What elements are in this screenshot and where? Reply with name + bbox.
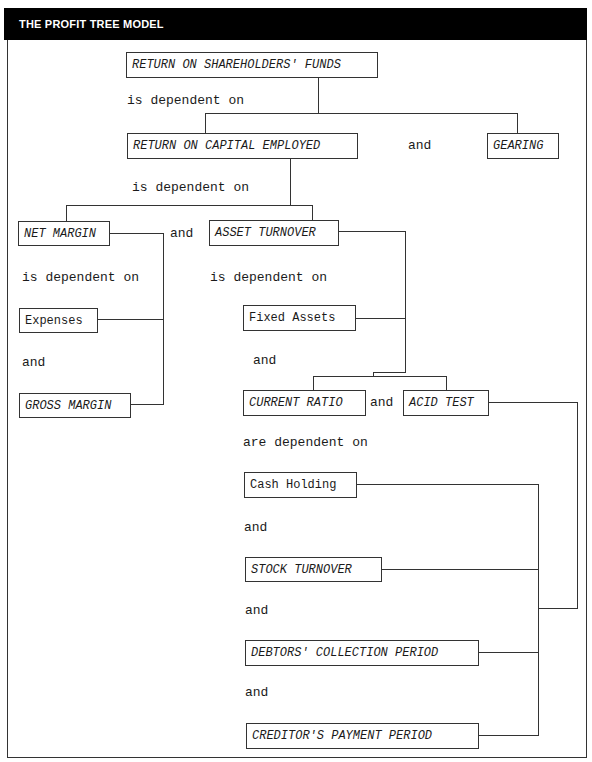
connector xyxy=(479,652,539,653)
label-and: and xyxy=(170,227,193,240)
connector xyxy=(318,78,319,114)
node-creditors-payment-period: CREDITOR'S PAYMENT PERIOD xyxy=(246,723,479,749)
connector xyxy=(446,376,447,390)
node-gearing: GEARING xyxy=(487,133,559,159)
connector xyxy=(538,484,539,736)
connector xyxy=(66,205,67,221)
connector xyxy=(98,319,164,320)
connector xyxy=(517,113,518,133)
connector xyxy=(339,231,406,232)
connector xyxy=(312,205,313,220)
connector xyxy=(290,159,291,206)
node-gross-margin: GROSS MARGIN xyxy=(19,393,131,418)
node-return-on-capital-employed: RETURN ON CAPITAL EMPLOYED xyxy=(127,133,358,159)
label-and: and xyxy=(22,356,45,369)
connector xyxy=(131,404,164,405)
node-net-margin: NET MARGIN xyxy=(18,221,110,246)
node-fixed-assets: Fixed Assets xyxy=(243,305,356,331)
connector xyxy=(313,376,314,390)
connector xyxy=(538,608,578,609)
connector xyxy=(373,372,406,373)
connector xyxy=(405,231,406,373)
node-return-on-shareholders-funds: RETURN ON SHAREHOLDERS' FUNDS xyxy=(126,52,378,78)
label-are-dependent-on: are dependent on xyxy=(243,436,368,449)
connector xyxy=(110,233,164,234)
node-acid-test: ACID TEST xyxy=(403,390,489,416)
label-is-dependent-on: is dependent on xyxy=(127,94,244,107)
connector xyxy=(382,569,539,570)
node-stock-turnover: STOCK TURNOVER xyxy=(245,557,382,582)
node-expenses: Expenses xyxy=(19,308,98,333)
node-debtors-collection-period: DEBTORS' COLLECTION PERIOD xyxy=(245,640,479,666)
connector xyxy=(313,376,447,377)
node-asset-turnover: ASSET TURNOVER xyxy=(209,220,339,246)
connector xyxy=(357,484,539,485)
diagram-title: THE PROFIT TREE MODEL xyxy=(4,8,587,40)
connector xyxy=(577,402,578,609)
connector xyxy=(205,113,206,133)
label-is-dependent-on: is dependent on xyxy=(132,181,249,194)
connector xyxy=(479,735,539,736)
label-and: and xyxy=(245,686,268,699)
connector xyxy=(66,205,313,206)
connector xyxy=(489,402,578,403)
node-cash-holding: Cash Holding xyxy=(244,472,357,498)
label-and: and xyxy=(370,396,393,409)
label-and: and xyxy=(244,521,267,534)
label-and: and xyxy=(253,354,276,367)
label-is-dependent-on: is dependent on xyxy=(22,271,139,284)
label-is-dependent-on: is dependent on xyxy=(210,271,327,284)
label-and: and xyxy=(408,139,431,152)
connector xyxy=(356,318,406,319)
node-current-ratio: CURRENT RATIO xyxy=(243,390,366,416)
label-and: and xyxy=(245,604,268,617)
connector xyxy=(205,113,518,114)
